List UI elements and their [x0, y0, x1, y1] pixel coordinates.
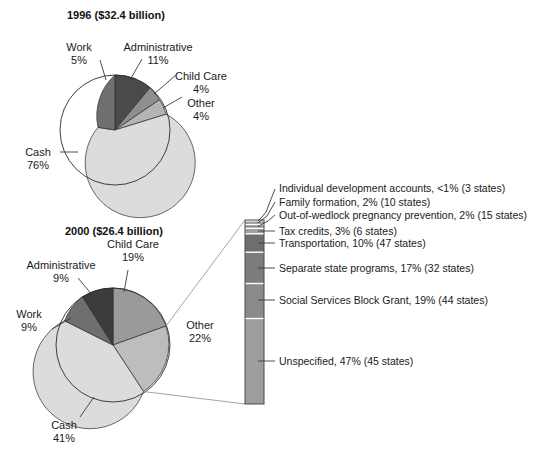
pie-1996-title: 1996 ($32.4 billion) — [67, 9, 165, 21]
bar-label-individual-development-accounts: Individual development accounts, <1% (3 … — [279, 182, 505, 194]
pie-2000-label-work: Work — [16, 308, 42, 320]
other-breakout-bar — [245, 220, 264, 404]
pie-1996-label-work: Work — [66, 41, 92, 53]
bar-label-unspecified: Unspecified, 47% (45 states) — [279, 355, 413, 367]
pie-1996-value-administrative: 11% — [147, 54, 168, 66]
bar-label-tax-credits: Tax credits, 3% (6 states) — [279, 225, 397, 237]
bar-label-out-of-wedlock-pregnancy-prevention: Out-of-wedlock pregnancy prevention, 2% … — [279, 209, 527, 221]
pie-2000-value-administrative: 9% — [53, 272, 69, 284]
leader-1996-other — [163, 97, 182, 108]
pie-1996-value-other: 4% — [193, 110, 209, 122]
leader-2000-administrative — [78, 278, 93, 296]
pie-1996-label-administrative: Administrative — [123, 41, 192, 53]
explode-line-bottom — [144, 392, 246, 405]
pie-1996-value-childcare: 4% — [193, 83, 209, 95]
pie-2000-value-childcare: 19% — [122, 251, 144, 263]
pie-2000 — [33, 288, 170, 429]
pie-2000-value-work: 9% — [21, 321, 37, 333]
bar-label-social-services-block-grant: Social Services Block Grant, 19% (44 sta… — [279, 294, 488, 306]
pie-1996-slice-work[interactable] — [97, 75, 115, 130]
bar-segment-social-services-block-grant[interactable] — [245, 284, 264, 319]
leader-1996-administrative — [130, 59, 142, 80]
pie-1996-slice-cash[interactable] — [85, 114, 195, 217]
bar-label-family-formation: Family formation, 2% (10 states) — [279, 196, 430, 208]
chart-figure: 1996 ($32.4 billion) Work 5% Administrat… — [0, 0, 557, 451]
pie-2000-label-administrative: Administrative — [26, 259, 95, 271]
pie-1996-label-other: Other — [187, 97, 215, 109]
pie-1996-label-childcare: Child Care — [175, 70, 227, 82]
bar-label-separate-state-programs: Separate state programs, 17% (32 states) — [279, 262, 474, 274]
pie-2000-value-cash: 41% — [53, 432, 75, 444]
pie-2000-label-other: Other — [186, 319, 214, 331]
bar-label-transportation: Transportation, 10% (47 states) — [279, 237, 426, 249]
pie-1996-label-cash: Cash — [25, 146, 51, 158]
pie-2000-value-other: 22% — [189, 332, 211, 344]
pie-2000-label-cash: Cash — [51, 419, 77, 431]
leader-2000-childcare — [124, 270, 128, 292]
pie-1996-value-work: 5% — [71, 54, 87, 66]
pie-1996 — [60, 75, 195, 218]
figure-canvas: 1996 ($32.4 billion) Work 5% Administrat… — [0, 0, 557, 451]
pie-2000-label-childcare: Child Care — [107, 238, 159, 250]
leader-1996-childcare — [154, 75, 176, 94]
pie-2000-title: 2000 ($26.4 billion) — [65, 225, 163, 237]
explode-line-top — [166, 220, 245, 326]
pie-1996-value-cash: 76% — [27, 159, 49, 171]
